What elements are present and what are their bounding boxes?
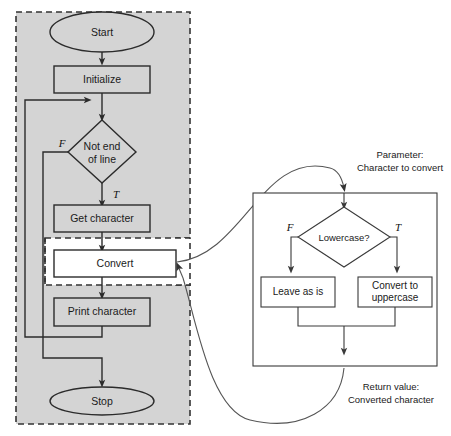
flowchart-canvas: Start Initialize Not end of line F T Get… <box>0 0 451 436</box>
node-lowercase-label: Lowercase? <box>318 232 369 243</box>
node-print-character-label: Print character <box>68 305 137 317</box>
node-not-end-of-line-label-2: of line <box>88 153 116 165</box>
branch-label-true-sub: T <box>395 221 402 233</box>
node-not-end-of-line-label-1: Not end <box>84 140 121 152</box>
flowchart-diagram: Start Initialize Not end of line F T Get… <box>0 0 451 436</box>
return-note-line1: Return value: <box>363 381 420 392</box>
parameter-note-line1: Parameter: <box>377 149 424 160</box>
branch-label-false-sub: F <box>286 221 294 233</box>
node-convert-to-uppercase-label-2: uppercase <box>372 292 419 303</box>
parameter-note-line2: Character to convert <box>357 162 443 173</box>
node-start-label: Start <box>91 26 113 38</box>
branch-label-true-main: T <box>113 188 120 200</box>
branch-label-false-main: F <box>58 137 66 149</box>
connector-call-curve-arrow <box>330 168 344 188</box>
node-stop-label: Stop <box>91 395 113 407</box>
return-note-line2: Converted character <box>348 394 434 405</box>
node-initialize-label: Initialize <box>83 73 121 85</box>
node-convert-label: Convert <box>97 257 134 269</box>
node-leave-as-is-label: Leave as is <box>273 286 324 297</box>
node-get-character-label: Get character <box>70 212 134 224</box>
node-convert-to-uppercase-label-1: Convert to <box>372 280 419 291</box>
